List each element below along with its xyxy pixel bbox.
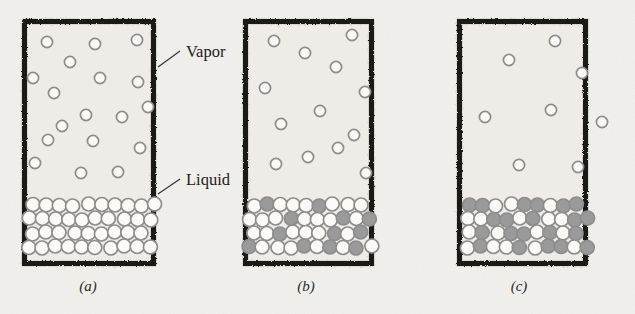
liquid-molecule-filled: [568, 213, 582, 227]
liquid-molecule-open: [22, 241, 36, 255]
liquid-molecule-filled: [463, 198, 477, 212]
liquid-molecule-open: [68, 226, 82, 240]
panel-c: (c): [460, 22, 608, 296]
liquid-molecule-filled: [260, 197, 274, 211]
liquid-molecule-open: [130, 240, 144, 254]
vapor-molecule: [572, 161, 583, 172]
vapor-molecule: [116, 111, 127, 122]
vapor-molecule: [360, 167, 371, 178]
liquid-molecule-filled: [504, 227, 518, 241]
liquid-molecule-open: [284, 241, 298, 255]
liquid-molecule-open: [273, 198, 287, 212]
liquid-molecule-open: [543, 199, 557, 213]
liquid-molecule-filled: [581, 211, 595, 225]
panel-caption: (a): [79, 278, 97, 295]
liquid-molecule-open: [108, 198, 122, 212]
liquid-molecule-open: [104, 241, 118, 255]
liquid-molecule-open: [88, 241, 102, 255]
panel-a: (a): [22, 22, 162, 296]
liquid-molecule-open: [131, 213, 145, 227]
liquid-molecule-open: [39, 198, 53, 212]
liquid-molecule-filled: [543, 226, 557, 240]
liquid-molecule-open: [530, 225, 544, 239]
liquid-molecule-open: [271, 241, 285, 255]
liquid-molecule-open: [336, 241, 350, 255]
liquid-molecule-open: [542, 212, 556, 226]
liquid-molecule-open: [299, 226, 313, 240]
liquid-molecule-open: [365, 239, 379, 253]
liquid-molecule-filled: [569, 227, 583, 241]
vapor-molecule: [314, 105, 325, 116]
liquid-molecule-open: [35, 212, 49, 226]
vapor-molecule: [56, 120, 67, 131]
liquid-molecule-filled: [487, 213, 501, 227]
liquid-molecule-open: [81, 227, 95, 241]
vapor-molecule: [330, 61, 341, 72]
liquid-molecule-filled: [517, 227, 531, 241]
liquid-molecule-open: [310, 240, 324, 254]
liquid-molecule-open: [117, 239, 131, 253]
liquid-molecule-open: [49, 212, 63, 226]
liquid-molecule-open: [117, 212, 131, 226]
liquid-molecule-open: [26, 227, 40, 241]
liquid-molecule-filled: [512, 241, 526, 255]
liquid-molecule-open: [52, 226, 66, 240]
panel-caption: (c): [511, 278, 528, 295]
liquid-molecule-filled: [273, 227, 287, 241]
liquid-molecule-open: [39, 225, 53, 239]
liquid-molecule-open: [354, 198, 368, 212]
liquid-molecule-open: [48, 239, 62, 253]
liquid-molecule-open: [256, 213, 270, 227]
liquid-molecule-open: [255, 240, 269, 254]
liquid-molecule-open: [513, 211, 527, 225]
liquid-molecule-open: [474, 212, 488, 226]
liquid-molecule-filled: [312, 199, 326, 213]
liquid-molecule-filled: [517, 198, 531, 212]
vapor-molecule: [94, 72, 105, 83]
liquid-molecule-open: [556, 226, 570, 240]
liquid-molecule-open: [269, 211, 283, 225]
liquid-molecule-open: [297, 212, 311, 226]
vapor-molecule: [503, 54, 514, 65]
liquid-molecule-open: [460, 241, 474, 255]
liquid-molecule-open: [101, 212, 115, 226]
liquid-molecule-filled: [556, 199, 570, 213]
liquid-molecule-open: [108, 225, 122, 239]
liquid-molecule-filled: [242, 240, 256, 254]
vapor-molecule: [42, 134, 53, 145]
liquid-molecule-filled: [500, 213, 514, 227]
panel-caption: (b): [297, 278, 315, 295]
liquid-molecule-open: [567, 240, 581, 254]
liquid-molecule-filled: [580, 241, 594, 255]
vapor-molecule: [302, 151, 313, 162]
liquid-molecule-open: [121, 199, 135, 213]
liquid-molecule-filled: [349, 241, 363, 255]
liquid-molecule-open: [504, 197, 518, 211]
vapor-molecule: [268, 35, 279, 46]
panel-b: (b): [242, 22, 379, 296]
vapor-molecule: [479, 111, 490, 122]
liquid-molecule-filled: [530, 198, 544, 212]
label-vapor: Vapor: [186, 42, 226, 61]
liquid-molecule-open: [88, 211, 102, 225]
label-liquid: Liquid: [186, 170, 231, 189]
liquid-molecule-open: [461, 212, 475, 226]
vapor-molecule: [41, 36, 52, 47]
liquid-molecule-open: [22, 211, 36, 225]
liquid-molecule-filled: [526, 212, 540, 226]
vapor-molecule: [596, 116, 607, 127]
liquid-molecule-filled: [284, 212, 298, 226]
liquid-molecule-open: [486, 240, 500, 254]
liquid-molecule-open: [62, 213, 76, 227]
liquid-molecule-open: [491, 226, 505, 240]
liquid-molecule-open: [144, 213, 158, 227]
liquid-molecule-open: [95, 198, 109, 212]
liquid-molecule-open: [247, 199, 261, 213]
liquid-molecule-open: [26, 198, 40, 212]
liquid-molecule-open: [341, 198, 355, 212]
liquid-molecule-open: [349, 212, 363, 226]
vapor-molecule: [142, 101, 153, 112]
liquid-molecule-open: [52, 199, 66, 213]
liquid-molecule-filled: [297, 239, 311, 253]
vapor-molecule: [132, 76, 143, 87]
